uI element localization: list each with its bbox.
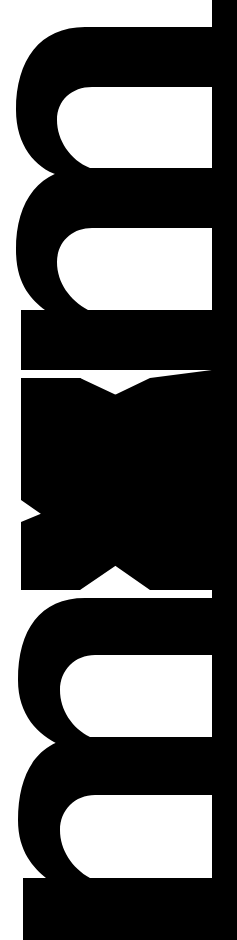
glyph-m-1: [16, 27, 212, 370]
mxm-logo: [0, 0, 237, 940]
spine: [212, 0, 237, 940]
glyph-x: [21, 370, 212, 590]
glyph-m-2: [18, 598, 212, 940]
